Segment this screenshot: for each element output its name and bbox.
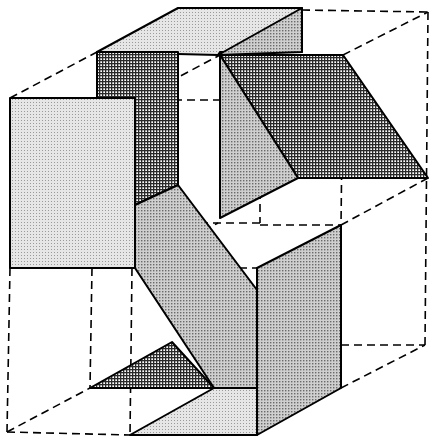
outer-top-back-edge (302, 10, 428, 12)
bottom-face (130, 388, 257, 435)
shaded-faces (10, 8, 428, 435)
inner-left-vertical-130 (130, 268, 132, 435)
outer-top-left-diagonal (10, 52, 97, 98)
inner-left-vertical-92 (90, 268, 92, 388)
right-vertical-panel (257, 225, 341, 435)
left-panel-face (10, 98, 135, 268)
outer-bottom-front-edge (7, 432, 130, 435)
outer-bottom-right-diagonal (341, 345, 425, 388)
diagram-canvas (0, 0, 435, 446)
isometric-cube-diagram (0, 0, 435, 446)
inner-diagonal-lower-right (341, 178, 428, 225)
outer-top-right-diagonal (343, 12, 428, 55)
outer-left-vertical (7, 268, 10, 432)
outer-bottom-left-diagonal (7, 388, 90, 432)
